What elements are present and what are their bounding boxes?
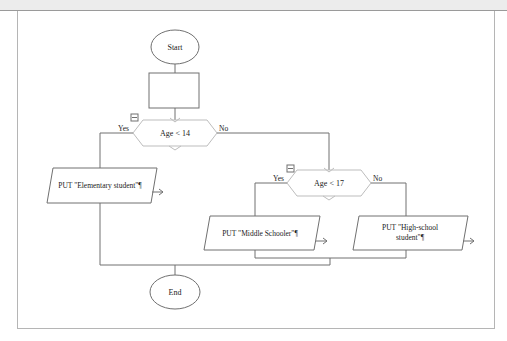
process-node[interactable] — [149, 73, 199, 108]
minus-box-icon[interactable] — [287, 165, 294, 172]
decision2-yes-label: Yes — [273, 174, 284, 183]
connector-no-high — [371, 183, 406, 216]
decision1-no-label: No — [219, 124, 228, 133]
connector-yes-elementary — [100, 133, 133, 168]
end-label: End — [169, 288, 182, 297]
output-high-label-line1: PUT "High-school — [382, 223, 438, 232]
output-elementary-label: PUT "Elementary student"¶ — [58, 181, 142, 190]
decision2-no-label: No — [373, 174, 382, 183]
connector-yes-middle — [255, 183, 287, 216]
minus-box-icon[interactable] — [131, 114, 138, 121]
output-high-label-line2: student"¶ — [396, 233, 425, 242]
decision1-label: Age < 14 — [160, 129, 190, 138]
connector-no-decision2 — [217, 133, 329, 170]
decision2-label: Age < 17 — [314, 179, 344, 188]
connector-merge-decision2 — [255, 250, 406, 258]
start-label: Start — [167, 43, 183, 52]
output-middle-label: PUT "Middle Schooler"¶ — [222, 229, 298, 238]
flowchart-diagram: Start Age < 14 Yes No PUT "Elementary st… — [0, 0, 507, 341]
decision1-yes-label: Yes — [118, 124, 129, 133]
